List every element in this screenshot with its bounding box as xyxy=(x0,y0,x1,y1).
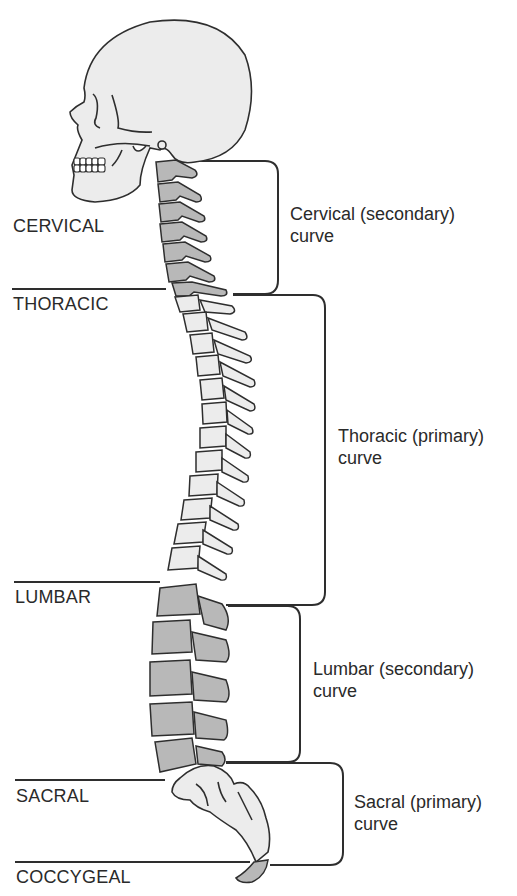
region-label-thoracic: THORACIC xyxy=(13,294,109,315)
sacrum xyxy=(172,766,270,863)
region-label-lumbar: LUMBAR xyxy=(15,587,91,608)
curve-label-cervical-line2: curve xyxy=(290,225,455,247)
region-label-cervical: CERVICAL xyxy=(13,216,104,237)
curve-label-sacral-line1: Sacral (primary) xyxy=(354,791,482,813)
lumbar-vertebrae xyxy=(150,584,229,772)
curve-label-thoracic: Thoracic (primary) curve xyxy=(338,425,484,469)
spine-diagram: CERVICAL THORACIC LUMBAR SACRAL COCCYGEA… xyxy=(0,0,517,896)
curve-label-cervical: Cervical (secondary) curve xyxy=(290,203,455,247)
coccyx xyxy=(236,860,268,883)
curve-label-lumbar-line1: Lumbar (secondary) xyxy=(313,658,474,680)
curve-label-sacral-line2: curve xyxy=(354,813,482,835)
curve-label-cervical-line1: Cervical (secondary) xyxy=(290,203,455,225)
curve-label-thoracic-line1: Thoracic (primary) xyxy=(338,425,484,447)
thoracic-vertebrae xyxy=(168,295,255,580)
cervical-vertebrae xyxy=(156,160,227,296)
curve-label-sacral: Sacral (primary) curve xyxy=(354,791,482,835)
curve-label-thoracic-line2: curve xyxy=(338,447,484,469)
curve-label-lumbar: Lumbar (secondary) curve xyxy=(313,658,474,702)
curve-label-lumbar-line2: curve xyxy=(313,680,474,702)
region-label-coccygeal: COCCYGEAL xyxy=(16,867,131,888)
region-label-sacral: SACRAL xyxy=(16,786,89,807)
